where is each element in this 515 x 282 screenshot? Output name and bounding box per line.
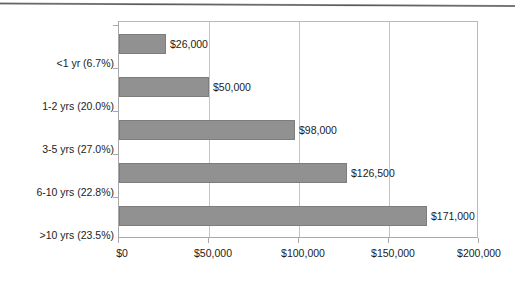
gridline-150000 — [389, 22, 390, 237]
bar-2 — [119, 120, 295, 140]
bar-1 — [119, 77, 209, 97]
bar-4 — [119, 206, 427, 226]
category-label-0: <1 yr (6.7%) — [2, 53, 114, 73]
category-label-3: 6-10 yrs (22.8%) — [2, 182, 114, 202]
category-label-1: 1-2 yrs (20.0%) — [2, 96, 114, 116]
page-divider-rule — [0, 2, 515, 8]
bar-value-4: $171,000 — [431, 206, 475, 226]
bar-chart-figure: <1 yr (6.7%) 1-2 yrs (20.0%) 3-5 yrs (27… — [0, 0, 515, 282]
bar-value-2: $98,000 — [299, 120, 337, 140]
x-axis-tick-3 — [388, 238, 389, 243]
x-axis-label-0: $0 — [116, 247, 128, 259]
x-axis-label-3: $150,000 — [371, 247, 415, 259]
bar-value-3: $126,500 — [351, 163, 395, 183]
plot-area: $26,000 $50,000 $98,000 $126,500 $171,00… — [118, 21, 478, 238]
x-axis-tick-4 — [478, 238, 479, 243]
category-axis-labels: <1 yr (6.7%) 1-2 yrs (20.0%) 3-5 yrs (27… — [0, 21, 114, 238]
category-label-4: >10 yrs (23.5%) — [2, 225, 114, 245]
bar-0 — [119, 34, 166, 54]
x-axis-label-1: $50,000 — [194, 247, 232, 259]
x-axis-label-2: $100,000 — [281, 247, 325, 259]
x-axis-tick-0 — [118, 238, 119, 243]
x-axis-tick-1 — [208, 238, 209, 243]
bar-value-0: $26,000 — [170, 34, 208, 54]
bar-3 — [119, 163, 347, 183]
x-axis-tick-2 — [298, 238, 299, 243]
category-label-2: 3-5 yrs (27.0%) — [2, 139, 114, 159]
x-axis-label-4: $200,000 — [457, 247, 501, 259]
bar-value-1: $50,000 — [213, 77, 251, 97]
